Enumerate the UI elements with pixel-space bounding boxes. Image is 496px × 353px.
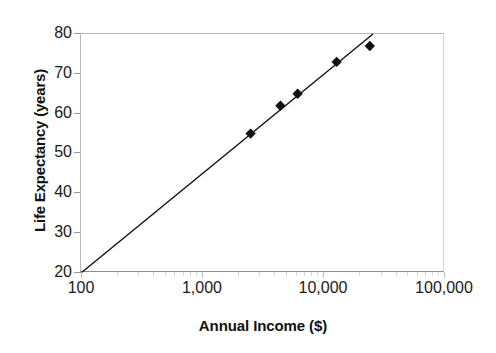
- y-tick-label-30: 30: [24, 224, 72, 240]
- x-minor-tick-mark: [417, 272, 418, 276]
- x-tick-label-10000: 10,000: [263, 279, 383, 296]
- data-series-group: [81, 34, 375, 273]
- x-minor-tick-mark: [190, 272, 191, 276]
- data-point-marker[interactable]: [365, 41, 375, 51]
- x-tick-mark-100000: [444, 272, 445, 278]
- x-tick-label-100: 100: [21, 279, 141, 296]
- x-minor-tick-mark: [432, 272, 433, 276]
- x-minor-tick-mark: [174, 272, 175, 276]
- y-tick-label-40: 40: [24, 184, 72, 200]
- plot-canvas: [81, 34, 445, 273]
- y-tick-mark-20: [74, 272, 81, 273]
- x-minor-tick-mark: [317, 272, 318, 276]
- y-tick-label-20: 20: [24, 264, 72, 280]
- x-minor-tick-mark: [381, 272, 382, 276]
- y-tick-label-70: 70: [24, 65, 72, 81]
- chart-figure: Life Expectancy (years) 80 70 60 50 40 3…: [0, 0, 496, 353]
- x-minor-tick-mark: [117, 272, 118, 276]
- data-point-marker[interactable]: [292, 89, 302, 99]
- x-minor-tick-mark: [196, 272, 197, 276]
- x-minor-tick-mark: [286, 272, 287, 276]
- x-minor-tick-mark: [359, 272, 360, 276]
- x-axis-title: Annual Income ($): [80, 317, 446, 334]
- x-minor-tick-mark: [407, 272, 408, 276]
- data-point-marker[interactable]: [331, 57, 341, 67]
- x-tick-mark-1000: [202, 272, 203, 278]
- x-minor-tick-mark: [274, 272, 275, 276]
- trendline: [81, 34, 373, 273]
- x-minor-tick-mark: [304, 272, 305, 276]
- x-tick-mark-10000: [323, 272, 324, 278]
- x-minor-tick-mark: [259, 272, 260, 276]
- x-minor-tick-mark: [183, 272, 184, 276]
- x-tick-label-100000: 100,000: [384, 279, 496, 296]
- data-point-marker[interactable]: [275, 101, 285, 111]
- x-minor-tick-mark: [425, 272, 426, 276]
- plot-area: [80, 33, 444, 272]
- x-minor-tick-mark: [238, 272, 239, 276]
- x-minor-tick-mark: [396, 272, 397, 276]
- y-tick-label-80: 80: [24, 25, 72, 41]
- x-minor-tick-mark: [311, 272, 312, 276]
- y-axis-tick-labels: 80 70 60 50 40 30 20: [20, 0, 72, 353]
- y-tick-label-60: 60: [24, 105, 72, 121]
- x-minor-tick-mark: [153, 272, 154, 276]
- x-minor-tick-mark: [165, 272, 166, 276]
- x-minor-tick-mark: [138, 272, 139, 276]
- x-tick-label-1000: 1,000: [142, 279, 262, 296]
- x-minor-tick-mark: [296, 272, 297, 276]
- x-tick-mark-100: [81, 272, 82, 278]
- y-tick-label-50: 50: [24, 144, 72, 160]
- x-minor-tick-mark: [438, 272, 439, 276]
